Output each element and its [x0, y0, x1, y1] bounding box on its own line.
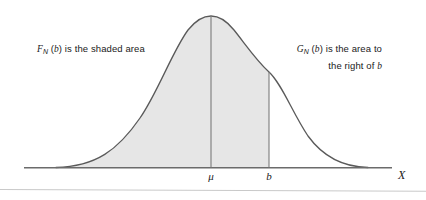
x-axis-label: X — [398, 168, 405, 183]
label-right-text1: is the area to — [323, 43, 382, 54]
label-right-subscript: N — [304, 48, 309, 55]
label-right-symbol: G — [297, 44, 304, 54]
normal-distribution-figure: FN (b) is the shaded area GN (b) is the … — [0, 0, 426, 200]
tick-label-mu: μ — [199, 170, 223, 182]
label-right-line2: the right of b — [258, 59, 382, 74]
label-shaded-subscript: N — [43, 48, 48, 55]
label-right-tail-area: GN (b) is the area to the right of b — [258, 42, 382, 73]
label-right-text2: the right of — [328, 60, 377, 71]
label-right-line1: GN (b) is the area to — [258, 42, 382, 59]
shaded-area-left-of-b — [56, 16, 269, 168]
unshaded-area-right-of-b — [269, 72, 368, 168]
label-shaded-area: FN (b) is the shaded area — [37, 42, 145, 59]
label-shaded-text: is the shaded area — [62, 43, 145, 54]
label-right-argument: (b) — [312, 43, 323, 54]
tick-label-b: b — [257, 170, 281, 182]
label-right-threshold-symbol: b — [377, 61, 382, 71]
label-shaded-argument: (b) — [51, 43, 62, 54]
